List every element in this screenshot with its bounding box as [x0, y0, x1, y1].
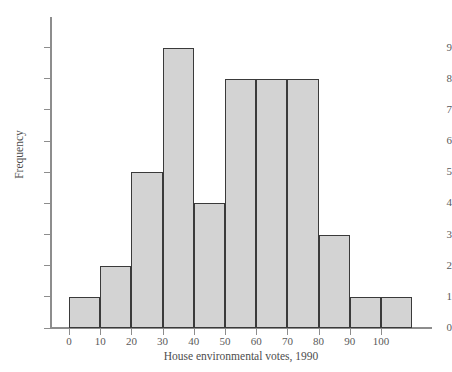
- y-tick-mark: [44, 234, 51, 235]
- y-tick-mark: [44, 172, 51, 173]
- y-tick-mark: [44, 296, 51, 297]
- histogram-figure: 0123456789 0102030405060708090100 House …: [0, 0, 452, 372]
- histogram-bar: [381, 297, 412, 328]
- x-axis-title: House environmental votes, 1990: [50, 350, 432, 363]
- y-tick-label: 7: [414, 104, 452, 115]
- histogram-bar: [163, 48, 194, 328]
- y-tick-mark: [44, 109, 51, 110]
- y-tick-label: 4: [414, 197, 452, 208]
- y-tick-label: 3: [414, 229, 452, 240]
- histogram-bar: [131, 172, 162, 328]
- histogram-bar: [319, 235, 350, 328]
- histogram-bar: [287, 79, 318, 328]
- y-tick-label: 1: [414, 291, 452, 302]
- y-tick-mark: [44, 78, 51, 79]
- histogram-bar: [69, 297, 100, 328]
- x-tick-label: 100: [361, 335, 401, 347]
- y-tick-mark: [44, 203, 51, 204]
- histogram-bar: [225, 79, 256, 328]
- y-tick-mark: [44, 328, 51, 329]
- y-axis-title: Frequency: [13, 110, 26, 200]
- y-tick-label: 0: [414, 322, 452, 333]
- bar-series: [0, 0, 452, 372]
- histogram-bar: [350, 297, 381, 328]
- y-tick-label: 5: [414, 166, 452, 177]
- y-tick-mark: [44, 141, 51, 142]
- histogram-bar: [100, 266, 131, 328]
- y-tick-label: 8: [414, 73, 452, 84]
- y-tick-mark: [44, 47, 51, 48]
- histogram-bar: [194, 203, 225, 328]
- y-tick-label: 2: [414, 260, 452, 271]
- histogram-bar: [256, 79, 287, 328]
- y-tick-label: 6: [414, 135, 452, 146]
- y-tick-mark: [44, 265, 51, 266]
- y-tick-label: 9: [414, 42, 452, 53]
